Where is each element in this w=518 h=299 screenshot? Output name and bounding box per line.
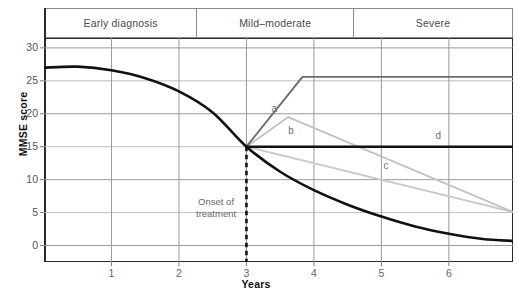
y-tick-25: 25 xyxy=(12,74,38,86)
curve-label-a: a xyxy=(271,103,277,114)
onset-of-treatment-annotation: Onset of treatment xyxy=(184,196,248,220)
curve-label-d: d xyxy=(435,130,441,141)
y-axis-title: MMSE score xyxy=(17,79,29,169)
y-tick-15: 15 xyxy=(12,140,38,152)
y-tick-10: 10 xyxy=(12,173,38,185)
onset-line-2: treatment xyxy=(184,208,248,220)
x-tick-2: 2 xyxy=(168,267,190,279)
x-tick-4: 4 xyxy=(303,267,325,279)
y-tick-5: 5 xyxy=(12,206,38,218)
x-axis-title: Years xyxy=(211,278,301,290)
series-line-a xyxy=(246,77,513,147)
y-tick-0: 0 xyxy=(12,239,38,251)
chart-figure: Early diagnosis Mild–moderate Severe MMS… xyxy=(0,0,518,299)
curve-label-b: b xyxy=(288,125,294,136)
x-tick-5: 5 xyxy=(370,267,392,279)
series-line-b xyxy=(246,117,513,212)
y-tick-20: 20 xyxy=(12,107,38,119)
x-tick-1: 1 xyxy=(100,267,122,279)
series-layer xyxy=(44,67,513,241)
x-tick-3: 3 xyxy=(235,267,257,279)
y-tick-30: 30 xyxy=(12,41,38,53)
curve-label-c: c xyxy=(383,160,388,171)
chart-canvas xyxy=(0,0,518,299)
onset-line-1: Onset of xyxy=(184,196,248,208)
x-tick-6: 6 xyxy=(438,267,460,279)
